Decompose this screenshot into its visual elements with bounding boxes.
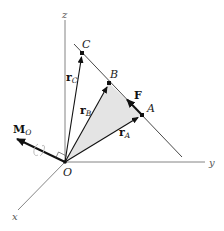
z-axis-label: z [61,9,68,20]
point-B-label: B [109,68,118,81]
rA-label: rA [119,126,131,140]
rC-label: rC [66,71,78,85]
point-C-label: C [82,38,91,51]
moment-MO [17,139,65,162]
y-axis-label: y [208,157,215,168]
moment-diagram: z y x C B A O rC rB rA F MO [0,0,224,231]
x-axis-label: x [12,211,18,222]
MO-label: MO [13,123,31,137]
point-A [140,113,144,117]
point-A-label: A [146,102,155,115]
x-axis [18,162,65,210]
point-B [107,81,111,85]
point-C [80,51,84,55]
F-label: F [134,89,142,102]
origin-point [63,160,67,164]
origin-label: O [63,166,72,179]
rB-label: rB [80,104,92,118]
